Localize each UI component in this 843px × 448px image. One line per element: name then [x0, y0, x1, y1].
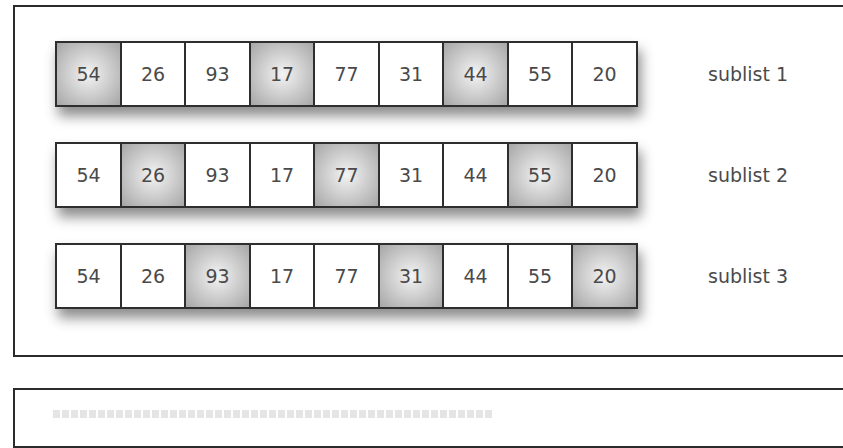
list-cell: 17 [249, 142, 316, 208]
list-cell: 17 [249, 41, 316, 107]
list-cell: 31 [378, 41, 445, 107]
list-cell: 26 [120, 41, 187, 107]
list-cell: 54 [55, 41, 122, 107]
list-cell: 17 [249, 243, 316, 309]
list-cell: 44 [442, 243, 509, 309]
sublist-label-2: sublist 2 [708, 142, 788, 208]
list-cell: 93 [184, 142, 251, 208]
list-cell: 93 [184, 243, 251, 309]
list-cell: 55 [507, 142, 574, 208]
list-cell: 44 [442, 142, 509, 208]
list-cell: 93 [184, 41, 251, 107]
list-cell: 20 [571, 243, 638, 309]
list-cell: 54 [55, 243, 122, 309]
list-cell: 77 [313, 142, 380, 208]
list-cell: 77 [313, 243, 380, 309]
secondary-diagram-frame [13, 388, 843, 448]
list-cell: 44 [442, 41, 509, 107]
list-cell: 31 [378, 142, 445, 208]
list-cell: 55 [507, 41, 574, 107]
clipped-text-fragment [53, 410, 493, 418]
list-cell: 77 [313, 41, 380, 107]
sublist-row-2: 54 26 93 17 77 31 44 55 20 [55, 142, 638, 208]
list-cell: 26 [120, 243, 187, 309]
list-cell: 31 [378, 243, 445, 309]
list-cell: 20 [571, 142, 638, 208]
list-cell: 54 [55, 142, 122, 208]
sublist-label-3: sublist 3 [708, 243, 788, 309]
sublist-row-1: 54 26 93 17 77 31 44 55 20 [55, 41, 638, 107]
sublist-label-1: sublist 1 [708, 41, 788, 107]
list-cell: 26 [120, 142, 187, 208]
sublist-row-3: 54 26 93 17 77 31 44 55 20 [55, 243, 638, 309]
list-cell: 20 [571, 41, 638, 107]
list-cell: 55 [507, 243, 574, 309]
